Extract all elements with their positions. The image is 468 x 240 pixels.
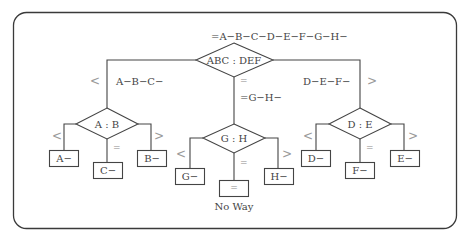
root-greater-label: D−E−F− [303,76,350,87]
ab-decision-label: A : B [94,119,119,130]
result-e-label: E− [397,153,413,164]
result-a-label: A− [55,153,72,164]
gh-equal-symbol: = [240,158,248,168]
de-decision-label: D : E [347,119,372,130]
no-way-caption: No Way [215,201,254,212]
decision-tree-diagram: =A−B−C−D−E−F−G−H− ABC : DEF < A−B−C− = =… [0,0,468,240]
de-greater-connector [391,124,404,150]
de-less-connector [316,124,329,150]
ab-equal-symbol: = [113,143,121,153]
root-greater-symbol: > [367,74,377,88]
result-f-label: F− [352,165,367,176]
gh-less-connector [190,138,203,168]
de-equal-symbol: = [366,143,374,153]
result-g-label: G− [182,171,198,182]
root-less-symbol: < [90,74,100,88]
ab-greater-symbol: > [154,129,164,143]
root-equal-label: =G−H− [240,92,282,103]
sequence-title: =A−B−C−D−E−F−G−H− [211,31,348,42]
de-greater-symbol: > [408,129,418,143]
result-h-label: H− [270,171,287,182]
gh-decision-label: G : H [221,133,248,144]
gh-greater-symbol: > [282,147,292,161]
result-c-label: C− [100,165,116,176]
ab-greater-connector [138,124,151,150]
ab-less-symbol: < [52,129,62,143]
result-d-label: D− [308,153,324,164]
result-equal-label: = [230,183,238,193]
de-less-symbol: < [303,129,313,143]
root-decision-label: ABC : DEF [206,55,261,66]
ab-less-connector [64,124,76,150]
result-b-label: B− [144,153,160,164]
root-equal-symbol: = [240,76,248,86]
gh-greater-connector [265,138,278,168]
root-less-label: A−B−C− [115,76,163,87]
gh-less-symbol: < [176,147,186,161]
